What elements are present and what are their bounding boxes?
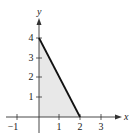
- chart-plot: −1 1 2 3 1 2 3 4 x y: [0, 0, 134, 139]
- x-tick-label-1: 1: [57, 121, 62, 132]
- x-axis-label: x: [123, 111, 129, 122]
- y-tick-label-4: 4: [29, 32, 34, 43]
- y-axis-arrow-icon: [37, 18, 42, 25]
- x-tick-label-2: 2: [78, 121, 83, 132]
- y-tick-label-3: 3: [29, 52, 34, 63]
- y-tick-label-1: 1: [29, 91, 34, 102]
- x-axis-arrow-icon: [115, 115, 122, 120]
- y-tick-label-2: 2: [29, 71, 34, 82]
- x-tick-label-neg1: −1: [8, 121, 19, 132]
- x-tick-label-3: 3: [99, 121, 104, 132]
- y-axis-label: y: [36, 6, 42, 17]
